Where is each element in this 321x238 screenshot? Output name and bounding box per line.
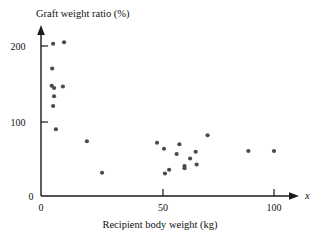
scatter-plot-figure: Graft weight ratio (%) x 200 100 0 0 50 — [0, 0, 321, 238]
y-tick-label: 100 — [11, 117, 26, 128]
y-axis — [37, 25, 45, 196]
data-point — [52, 94, 56, 98]
data-point — [246, 149, 250, 153]
data-point — [61, 84, 65, 88]
data-point — [100, 171, 104, 175]
data-point — [51, 42, 55, 46]
data-point — [175, 152, 179, 156]
y-axis-title: Graft weight ratio (%) — [36, 8, 130, 20]
x-axis-title: Recipient body weight (kg) — [102, 219, 218, 231]
data-point — [272, 149, 276, 153]
data-point — [188, 156, 192, 160]
x-tick-label: 100 — [267, 202, 282, 213]
data-point — [85, 139, 89, 143]
data-point — [51, 104, 55, 108]
data-point — [62, 40, 66, 44]
data-point — [177, 142, 181, 146]
data-point — [167, 168, 171, 172]
y-tick-group: 200 100 0 — [11, 41, 49, 202]
data-point — [195, 162, 199, 166]
x-tick-label: 50 — [158, 202, 168, 213]
data-point — [163, 171, 167, 175]
data-point — [155, 141, 159, 145]
chart-canvas: Graft weight ratio (%) x 200 100 0 0 50 — [0, 0, 321, 238]
y-tick-label: 0 — [29, 191, 34, 202]
data-point — [52, 86, 56, 90]
x-tick-label: 0 — [39, 202, 44, 213]
x-axis: x — [41, 190, 310, 201]
data-point — [50, 66, 54, 70]
x-axis-arrowhead — [289, 192, 299, 200]
y-tick-label: 200 — [11, 41, 26, 52]
data-point — [162, 147, 166, 151]
data-points-layer — [50, 40, 276, 175]
x-tick-group: 0 50 100 — [39, 189, 282, 213]
data-point — [54, 127, 58, 131]
data-point — [205, 133, 209, 137]
data-point — [182, 166, 186, 170]
y-axis-arrowhead — [37, 25, 45, 35]
x-axis-symbol-label: x — [304, 190, 310, 201]
data-point — [194, 150, 198, 154]
